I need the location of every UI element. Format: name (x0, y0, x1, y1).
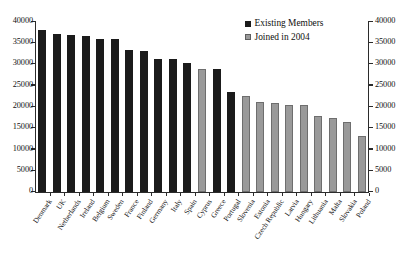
axis-tick-label: 10000 (375, 145, 395, 153)
bar (111, 39, 119, 191)
axis-tick-label: 20000 (13, 102, 33, 110)
bar (300, 105, 308, 192)
axis-tick-label: 0 (375, 187, 379, 195)
axis-tick (369, 127, 373, 128)
axis-tick-label: 35000 (13, 38, 33, 46)
bar (82, 36, 90, 191)
legend-label: Existing Members (255, 17, 324, 31)
axis-tick (64, 193, 65, 196)
axis-tick (311, 193, 312, 196)
axis-tick (282, 193, 283, 196)
x-axis-label: UK (55, 198, 67, 211)
axis-tick (108, 193, 109, 196)
bar (38, 30, 46, 191)
bar (256, 102, 264, 192)
axis-tick (369, 21, 373, 22)
axis-tick (369, 193, 370, 196)
axis-tick (93, 193, 94, 196)
axis-tick (166, 193, 167, 196)
bar (53, 34, 61, 192)
plot-area (35, 21, 369, 192)
axis-tick (238, 193, 239, 196)
bar (314, 116, 322, 191)
legend-item-joined-2004: Joined in 2004 (245, 31, 324, 45)
axis-tick (151, 193, 152, 196)
axis-tick (137, 193, 138, 196)
bar (154, 59, 162, 192)
axis-tick (325, 193, 326, 196)
axis-tick (209, 193, 210, 196)
axis-tick (180, 193, 181, 196)
axis-tick (369, 148, 373, 149)
axis-tick (195, 193, 196, 196)
chart-legend: Existing Members Joined in 2004 (245, 17, 324, 44)
x-axis-label: Denmark (32, 198, 53, 225)
bar (358, 136, 366, 192)
bar-chart: 4000035000300002500020000150001000050000… (0, 0, 407, 266)
bar (285, 105, 293, 192)
legend-label: Joined in 2004 (255, 31, 310, 45)
axis-tick (50, 193, 51, 196)
bar (125, 50, 133, 191)
legend-swatch-icon (245, 21, 251, 27)
bar (67, 35, 75, 192)
legend-swatch-icon (245, 34, 251, 40)
axis-tick (296, 193, 297, 196)
bar (329, 118, 337, 191)
axis-tick (369, 42, 373, 43)
axis-tick-label: 40000 (375, 17, 395, 25)
legend-item-existing-members: Existing Members (245, 17, 324, 31)
axis-tick (224, 193, 225, 196)
axis-tick-label: 20000 (375, 102, 395, 110)
axis-tick-label: 30000 (13, 59, 33, 67)
axis-tick (354, 193, 355, 196)
bar (183, 63, 191, 191)
axis-tick-label: 35000 (375, 38, 395, 46)
bar (271, 103, 279, 191)
bar (198, 69, 206, 191)
axis-tick (340, 193, 341, 196)
axis-tick (369, 170, 373, 171)
axis-tick-label: 5000 (17, 166, 33, 174)
axis-tick (79, 193, 80, 196)
axis-tick-label: 25000 (13, 81, 33, 89)
bar (96, 39, 104, 191)
bar (343, 122, 351, 192)
bar (140, 51, 148, 191)
axis-tick-label: 15000 (375, 123, 395, 131)
axis-tick (369, 84, 373, 85)
bar (242, 96, 250, 192)
axis-tick-label: 30000 (375, 59, 395, 67)
axis-tick (267, 193, 268, 196)
bar (227, 92, 235, 192)
bar (169, 59, 177, 191)
axis-tick (253, 193, 254, 196)
axis-tick (369, 63, 373, 64)
axis-tick-label: 10000 (13, 145, 33, 153)
axis-tick-label: 5000 (375, 166, 391, 174)
axis-tick (369, 106, 373, 107)
x-axis-line (35, 192, 369, 193)
axis-tick-label: 25000 (375, 81, 395, 89)
axis-tick-label: 15000 (13, 123, 33, 131)
axis-tick (122, 193, 123, 196)
axis-tick-label: 40000 (13, 17, 33, 25)
bar (213, 69, 221, 192)
axis-tick-label: 0 (29, 187, 33, 195)
